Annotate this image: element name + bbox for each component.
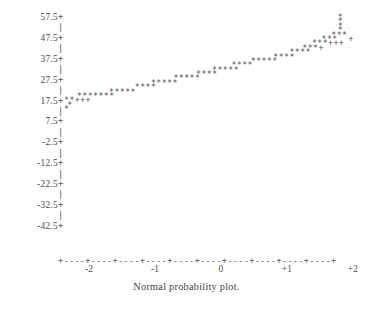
y-axis-tick-label: -22.5 xyxy=(14,179,58,189)
y-axis-tick-label: -12.5 xyxy=(14,158,58,168)
y-axis-connector: | xyxy=(58,64,63,74)
x-axis-tick-label: +1 xyxy=(282,264,292,274)
y-axis-tick-label: 47.5 xyxy=(14,33,58,43)
y-axis-connector-row: | xyxy=(14,169,63,179)
y-axis-tick-row: -42.5+ xyxy=(14,221,63,231)
y-axis-connector: | xyxy=(58,43,63,53)
y-axis-tick-label: 17.5 xyxy=(14,96,58,106)
x-axis-tick-labels: -2-10+1+2 xyxy=(58,264,358,278)
y-axis-tick-mark: + xyxy=(58,158,63,168)
y-axis-connector-row: | xyxy=(14,210,63,220)
y-axis-connector-row: | xyxy=(14,148,63,158)
y-axis-connector-row: | xyxy=(14,22,63,32)
y-axis-tick-row: 37.5+ xyxy=(14,54,63,64)
y-axis-connector: | xyxy=(58,169,63,179)
y-axis-tick-row: -12.5+ xyxy=(14,158,63,168)
y-axis-connector: | xyxy=(58,106,63,116)
y-axis-connector-row: | xyxy=(14,106,63,116)
y-axis-tick-row: 47.5+ xyxy=(14,33,63,43)
y-axis-tick-mark: + xyxy=(58,179,63,189)
y-axis-connector: | xyxy=(58,210,63,220)
data-point-row: * xyxy=(64,104,69,114)
x-axis-tick-label: -2 xyxy=(85,264,93,274)
y-axis-tick-row: 17.5+ xyxy=(14,96,63,106)
y-axis-tick-row: 7.5+ xyxy=(14,116,63,126)
y-axis-tick-label: 57.5 xyxy=(14,12,58,22)
y-axis-connector-row: | xyxy=(14,64,63,74)
x-axis-tick-label: 0 xyxy=(219,264,224,274)
y-axis-connector: | xyxy=(58,22,63,32)
y-axis-connector-row: | xyxy=(14,189,63,199)
y-axis-connector-row: | xyxy=(14,43,63,53)
y-axis-tick-mark: + xyxy=(58,137,63,147)
y-axis-tick-row: -32.5+ xyxy=(14,200,63,210)
y-axis-tick-mark: + xyxy=(58,200,63,210)
y-axis-connector: | xyxy=(58,148,63,158)
y-axis-tick-mark: + xyxy=(58,33,63,43)
y-axis-tick-mark: + xyxy=(58,221,63,231)
y-axis-tick-label: -32.5 xyxy=(14,200,58,210)
y-axis-tick-mark: + xyxy=(58,75,63,85)
x-axis-tick-label: -1 xyxy=(151,264,159,274)
y-axis-connector: | xyxy=(58,85,63,95)
plot-character-grid: 57.5+|47.5+|37.5+|27.5+|17.5+|7.5+|-2.5+… xyxy=(14,12,63,231)
figure-caption: Normal probability plot. xyxy=(0,281,373,292)
y-axis-tick-label: -2.5 xyxy=(14,137,58,147)
y-axis-tick-label: 7.5 xyxy=(14,116,58,126)
y-axis-tick-mark: + xyxy=(58,116,63,126)
y-axis-tick-label: -42.5 xyxy=(14,221,58,231)
y-axis-tick-mark: + xyxy=(58,96,63,106)
y-axis-connector: | xyxy=(58,127,63,137)
x-axis-tick-label: +2 xyxy=(348,264,358,274)
y-axis-tick-mark: + xyxy=(58,54,63,64)
data-point-row: ***** xyxy=(251,56,278,66)
y-axis-tick-label: 37.5 xyxy=(14,54,58,64)
y-axis-tick-row: 57.5+ xyxy=(14,12,63,22)
y-axis-tick-row: 27.5+ xyxy=(14,75,63,85)
normal-probability-plot-figure: 57.5+|47.5+|37.5+|27.5+|17.5+|7.5+|-2.5+… xyxy=(0,0,373,312)
y-axis-tick-row: -2.5+ xyxy=(14,137,63,147)
y-axis-connector-row: | xyxy=(14,85,63,95)
y-axis-connector-row: | xyxy=(14,127,63,137)
y-axis-connector: | xyxy=(58,189,63,199)
y-axis-tick-label: 27.5 xyxy=(14,75,58,85)
data-point-row: **** xyxy=(135,82,157,92)
y-axis-tick-mark: + xyxy=(58,12,63,22)
y-axis-tick-row: -22.5+ xyxy=(14,179,63,189)
